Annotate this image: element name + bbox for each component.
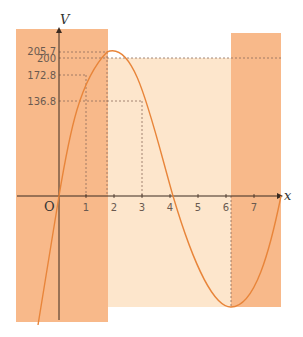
svg-text:6: 6 [223, 202, 229, 213]
svg-text:5: 5 [195, 202, 201, 213]
right-excluded-band [231, 33, 281, 307]
y-tick-labels: 205.7 200 172.8 136.8 [27, 46, 56, 107]
svg-text:3: 3 [139, 202, 145, 213]
svg-text:200: 200 [37, 53, 56, 64]
svg-text:7: 7 [251, 202, 257, 213]
svg-text:2: 2 [111, 202, 117, 213]
svg-text:172.8: 172.8 [27, 70, 56, 81]
origin-label: O [44, 199, 55, 214]
svg-text:136.8: 136.8 [27, 96, 56, 107]
y-axis-label: V [60, 12, 71, 27]
chart: V x O 205.7 200 172.8 136.8 1 2 3 4 5 6 … [0, 0, 303, 337]
svg-text:1: 1 [83, 202, 89, 213]
svg-text:4: 4 [167, 202, 173, 213]
x-axis-label: x [284, 188, 292, 203]
